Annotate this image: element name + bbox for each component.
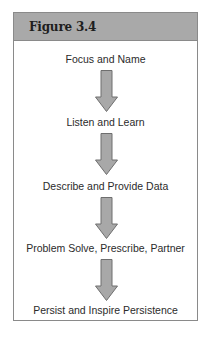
down-arrow-icon	[95, 70, 118, 112]
figure-box: Figure 3.4 Focus and Name Listen and Lea…	[13, 12, 198, 321]
figure-header: Figure 3.4	[14, 13, 197, 41]
down-arrow-icon	[95, 197, 118, 239]
step-focus-and-name: Focus and Name	[14, 53, 197, 65]
step-persist-and-inspire-persistence: Persist and Inspire Persistence	[14, 304, 197, 316]
step-listen-and-learn: Listen and Learn	[14, 116, 197, 128]
step-describe-and-provide-data: Describe and Provide Data	[14, 180, 197, 192]
step-problem-solve-prescribe-partner: Problem Solve, Prescribe, Partner	[14, 242, 197, 254]
figure-title: Figure 3.4	[29, 20, 96, 34]
down-arrow-icon	[95, 133, 118, 175]
down-arrow-icon	[95, 259, 118, 301]
